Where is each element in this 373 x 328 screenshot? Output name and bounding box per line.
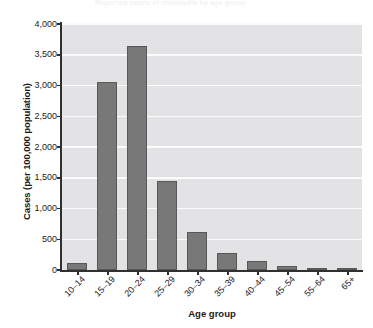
y-axis-title: Cases (per 100,000 population) [21,47,32,257]
y-tick-mark [57,146,61,148]
gridline [62,54,362,56]
y-tick-label: 2,500 [13,112,57,121]
bar [127,46,147,270]
plot-area [62,24,362,270]
y-tick-label: 2,000 [13,143,57,152]
chart-title-remnant: Reported cases of chlamydia by age group [95,0,310,7]
x-axis-title: Age group [62,308,362,319]
y-tick-mark [57,177,61,179]
y-tick-mark [57,85,61,87]
y-tick-label: 3,500 [13,50,57,59]
chart-figure: Reported cases of chlamydia by age group… [0,0,373,328]
y-tick-mark [57,116,61,118]
y-tick-label: 0 [13,266,57,275]
y-tick-mark [57,239,61,241]
y-tick-mark [57,269,61,271]
bar [157,181,177,270]
bar [247,261,267,270]
y-tick-mark [57,54,61,56]
y-tick-label: 3,000 [13,81,57,90]
bar [217,253,237,270]
y-tick-label: 1,000 [13,204,57,213]
y-tick-mark [57,208,61,210]
gridline [62,23,362,25]
bar [67,263,87,270]
y-tick-mark [57,23,61,25]
bar [97,82,117,270]
y-tick-label: 4,000 [13,20,57,29]
y-tick-label: 1,500 [13,173,57,182]
bar [187,232,207,270]
y-tick-label: 500 [13,235,57,244]
